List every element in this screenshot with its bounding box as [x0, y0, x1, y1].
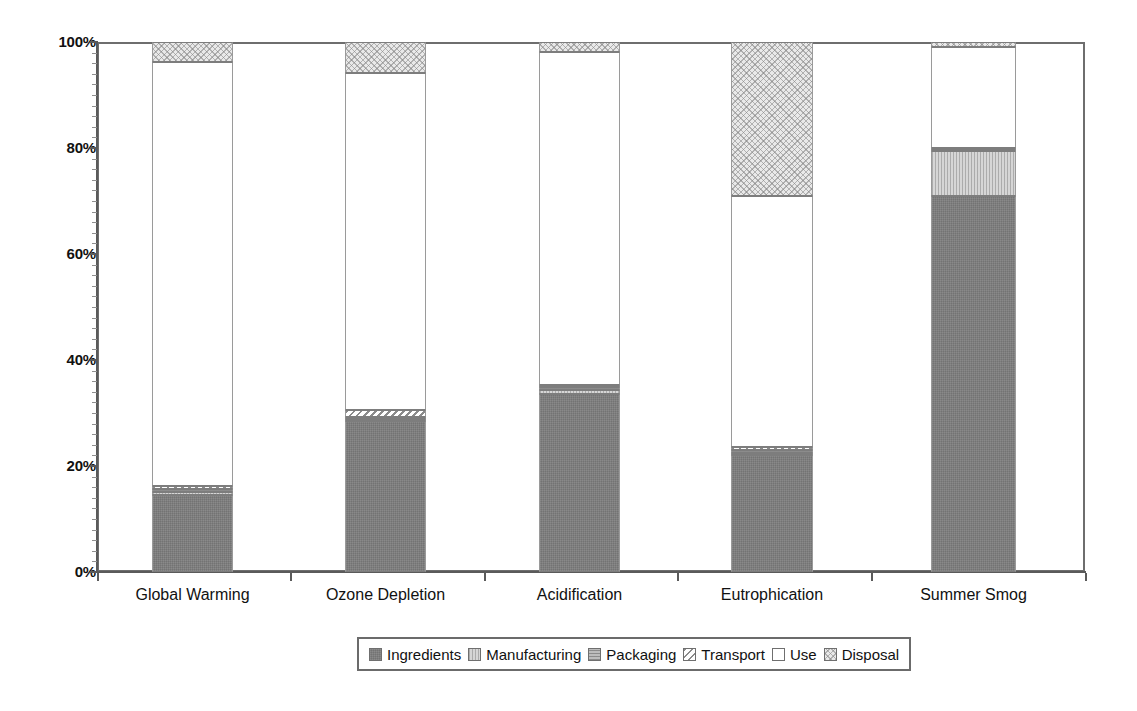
- x-axis-category-label: Eutrophication: [721, 586, 823, 604]
- y-axis-minor-tick: [92, 63, 97, 64]
- legend-item-manufacturing[interactable]: Manufacturing: [468, 646, 581, 663]
- bar-segment-global-warming-packaging: [152, 489, 233, 492]
- y-axis-tick-label: 0%: [46, 563, 96, 580]
- bar-segment-summer-smog-manufacturing: [931, 151, 1016, 196]
- bar-segment-summer-smog-ingredients: [931, 196, 1016, 572]
- y-axis-tick-label: 40%: [46, 351, 96, 368]
- y-axis-minor-tick: [92, 551, 97, 552]
- y-axis-minor-tick: [92, 328, 97, 329]
- bar-global-warming: [152, 42, 233, 572]
- y-axis-minor-tick: [92, 190, 97, 191]
- x-axis-tick-mark: [1085, 573, 1087, 581]
- bar-segment-ozone-depletion-transport: [345, 410, 426, 417]
- bar-segment-global-warming-use: [152, 62, 233, 486]
- bar-segment-acidification-ingredients: [539, 394, 620, 572]
- bar-segment-eutrophication-use: [731, 196, 813, 448]
- bar-segment-global-warming-disposal: [152, 42, 233, 62]
- y-axis-minor-tick: [92, 413, 97, 414]
- x-axis-tick-mark: [677, 573, 679, 581]
- y-axis-minor-tick: [92, 307, 97, 308]
- bar-segment-ozone-depletion-use: [345, 73, 426, 410]
- legend-item-transport[interactable]: Transport: [683, 646, 765, 663]
- y-axis-minor-tick: [92, 561, 97, 562]
- bar-segment-acidification-manufacturing: [539, 390, 620, 394]
- bar-acidification: [539, 42, 620, 572]
- x-axis-tick-mark: [871, 573, 873, 581]
- y-axis-minor-tick: [92, 95, 97, 96]
- y-axis-minor-tick: [92, 222, 97, 223]
- y-axis-minor-tick: [92, 74, 97, 75]
- bar-segment-acidification-disposal: [539, 42, 620, 52]
- x-axis-category-label: Ozone Depletion: [326, 586, 445, 604]
- y-axis-tick-label: 100%: [46, 33, 96, 50]
- bar-segment-eutrophication-transport: [731, 447, 813, 449]
- y-axis-tick-label: 20%: [46, 457, 96, 474]
- y-axis-minor-tick: [92, 434, 97, 435]
- y-axis-minor-tick: [92, 339, 97, 340]
- legend-item-packaging[interactable]: Packaging: [588, 646, 676, 663]
- y-axis-minor-tick: [92, 445, 97, 446]
- chart-legend: IngredientsManufacturingPackagingTranspo…: [357, 637, 911, 671]
- legend-label: Ingredients: [387, 646, 461, 663]
- y-axis-tick-label: 60%: [46, 245, 96, 262]
- y-axis-minor-tick: [92, 424, 97, 425]
- bar-segment-eutrophication-disposal: [731, 42, 813, 196]
- y-axis-minor-tick: [92, 487, 97, 488]
- bar-segment-global-warming-ingredients: [152, 495, 233, 572]
- legend-item-use[interactable]: Use: [772, 646, 817, 663]
- y-axis-minor-tick: [92, 127, 97, 128]
- y-axis-minor-tick: [92, 84, 97, 85]
- y-axis-minor-tick: [92, 275, 97, 276]
- y-axis-minor-tick: [92, 265, 97, 266]
- bar-segment-summer-smog-disposal: [931, 42, 1016, 47]
- x-axis-category-label: Acidification: [537, 586, 622, 604]
- y-axis-tick-mark: [90, 571, 97, 573]
- y-axis-minor-tick: [92, 159, 97, 160]
- y-axis-tick-mark: [90, 147, 97, 149]
- y-axis-minor-tick: [92, 116, 97, 117]
- legend-swatch-manufacturing-icon: [468, 648, 481, 661]
- y-axis-minor-tick: [92, 201, 97, 202]
- y-axis-minor-tick: [92, 477, 97, 478]
- y-axis-minor-tick: [92, 402, 97, 403]
- legend-label: Transport: [701, 646, 765, 663]
- legend-item-disposal[interactable]: Disposal: [824, 646, 900, 663]
- y-axis-minor-tick: [92, 455, 97, 456]
- bar-segment-eutrophication-manufacturing: [731, 453, 813, 456]
- y-axis-minor-tick: [92, 286, 97, 287]
- y-axis-minor-tick: [92, 243, 97, 244]
- y-axis-minor-tick: [92, 169, 97, 170]
- y-axis-minor-tick: [92, 180, 97, 181]
- bar-segment-global-warming-manufacturing: [152, 492, 233, 495]
- legend-swatch-packaging-icon: [588, 648, 601, 661]
- y-axis-tick-mark: [90, 465, 97, 467]
- legend-label: Manufacturing: [486, 646, 581, 663]
- y-axis-tick-mark: [90, 253, 97, 255]
- y-axis-minor-tick: [92, 53, 97, 54]
- legend-item-ingredients[interactable]: Ingredients: [369, 646, 461, 663]
- legend-label: Use: [790, 646, 817, 663]
- bar-segment-ozone-depletion-ingredients: [345, 421, 426, 572]
- bar-segment-ozone-depletion-disposal: [345, 42, 426, 73]
- bar-eutrophication: [731, 42, 813, 572]
- bar-segment-acidification-packaging: [539, 387, 620, 390]
- x-axis-tick-mark: [484, 573, 486, 581]
- stacked-bar-chart: 100%80%60%40%20%0% Global WarmingOzone D…: [0, 0, 1137, 711]
- legend-swatch-ingredients-icon: [369, 648, 382, 661]
- y-axis-minor-tick: [92, 212, 97, 213]
- x-axis-tick-mark: [290, 573, 292, 581]
- y-axis-minor-tick: [92, 381, 97, 382]
- bar-segment-acidification-use: [539, 52, 620, 385]
- bar-segment-ozone-depletion-manufacturing: [345, 419, 426, 421]
- y-axis-minor-tick: [92, 137, 97, 138]
- bar-ozone-depletion: [345, 42, 426, 572]
- y-axis-tick-label: 80%: [46, 139, 96, 156]
- y-axis-tick-mark: [90, 41, 97, 43]
- bar-summer-smog: [931, 42, 1016, 572]
- bar-segment-ozone-depletion-packaging: [345, 417, 426, 419]
- bar-segment-global-warming-transport: [152, 486, 233, 489]
- legend-swatch-disposal-icon: [824, 648, 837, 661]
- y-axis-minor-tick: [92, 519, 97, 520]
- y-axis-minor-tick: [92, 296, 97, 297]
- y-axis-minor-tick: [92, 233, 97, 234]
